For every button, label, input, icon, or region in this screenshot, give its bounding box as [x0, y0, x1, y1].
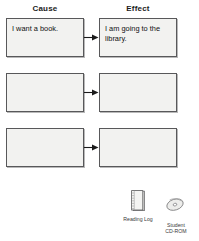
- cause-box-row-1[interactable]: I want a book.: [6, 18, 84, 57]
- arrow-right-icon-row-2: [84, 88, 99, 97]
- effect-text-row-2: [100, 74, 176, 79]
- effect-box-row-2[interactable]: [99, 73, 177, 112]
- column-heading-effect: Effect: [99, 4, 177, 13]
- effect-box-row-3[interactable]: [99, 128, 177, 167]
- cause-text-row-2: [7, 74, 83, 79]
- cause-effect-worksheet: Cause Effect I want a book. I am going t…: [0, 0, 199, 241]
- cause-text-row-3: [7, 129, 83, 134]
- resource-student-cd-rom[interactable]: Student CD-ROM: [154, 196, 198, 235]
- cause-box-row-2[interactable]: [6, 73, 84, 112]
- effect-text-row-3: [100, 129, 176, 134]
- resource-student-cd-rom-label-line2: CD-ROM: [154, 228, 198, 234]
- arrow-right-icon-row-3: [84, 143, 99, 152]
- column-heading-cause: Cause: [6, 4, 84, 13]
- effect-box-row-1[interactable]: I am going to the library.: [99, 18, 177, 57]
- cd-rom-icon: [154, 196, 198, 221]
- cause-text-row-1: I want a book.: [7, 19, 83, 34]
- effect-text-row-1: I am going to the library.: [100, 19, 176, 44]
- cause-box-row-3[interactable]: [6, 128, 84, 167]
- arrow-right-icon-row-1: [84, 33, 99, 42]
